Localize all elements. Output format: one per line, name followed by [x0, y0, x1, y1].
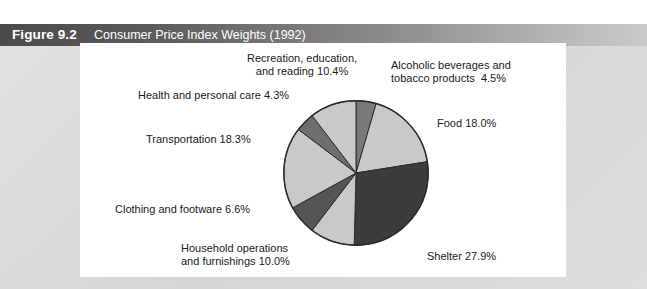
- slice-label-health-personal-care: Health and personal care 4.3%: [138, 89, 289, 102]
- figure-container: Figure 9.2 Consumer Price Index Weights …: [0, 0, 647, 289]
- slice-label-food: Food 18.0%: [437, 117, 496, 130]
- slice-label-household-operations: Household operations and furnishings 10.…: [181, 242, 290, 268]
- pie-slice: [354, 162, 428, 245]
- pie-chart: [282, 99, 430, 247]
- slice-label-recreation: Recreation, education, and reading 10.4%: [247, 52, 357, 78]
- slice-label-transportation: Transportation 18.3%: [146, 133, 251, 146]
- figure-number: Figure 9.2: [12, 27, 77, 42]
- pie-chart-svg: [282, 99, 430, 247]
- slice-label-clothing-footware: Clothing and footware 6.6%: [115, 203, 250, 216]
- slice-label-shelter: Shelter 27.9%: [427, 250, 496, 263]
- slice-label-alcoholic-beverages: Alcoholic beverages and tobacco products…: [391, 59, 511, 85]
- figure-caption: Consumer Price Index Weights (1992): [94, 28, 306, 42]
